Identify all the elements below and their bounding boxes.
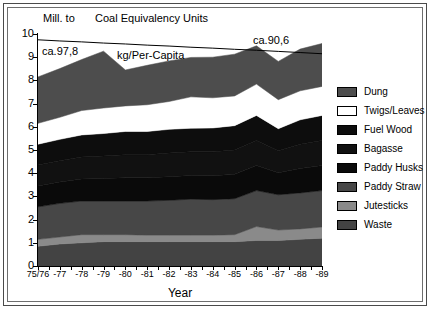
x-axis-tickmark: [311, 266, 312, 270]
chart-figure: Mill. to Coal Equivalency Units 10987654…: [0, 0, 432, 311]
annotation-per-capita-label: kg/Per-Capita: [117, 49, 184, 61]
y-axis-tick-label: 9: [8, 51, 34, 62]
x-axis-tick-label: -77: [53, 269, 66, 279]
x-axis-tickmark: [38, 266, 39, 270]
x-axis-tickmark: [147, 266, 148, 270]
x-axis-tickmark: [256, 266, 257, 270]
x-axis-tick-label: -80: [119, 269, 132, 279]
y-axis-labels: 109876543210: [4, 0, 34, 311]
y-axis-tick-label: 1: [8, 237, 34, 248]
legend-item-label: Paddy Straw: [364, 181, 421, 192]
legend-item: Paddy Husks: [337, 158, 429, 177]
annotation-right-value: ca.90,6: [253, 34, 289, 46]
x-axis-tickmark: [136, 266, 137, 270]
legend-item-label: Bagasse: [364, 143, 403, 154]
legend-swatch-icon: [337, 201, 357, 211]
y-axis-tick-label: 2: [8, 214, 34, 225]
legend-swatch-icon: [337, 163, 357, 173]
x-axis-tick-label: -87: [272, 269, 285, 279]
x-axis-tickmark: [202, 266, 203, 270]
x-axis-tick-label: 75/76: [27, 269, 50, 279]
x-axis-tickmark: [246, 266, 247, 270]
x-axis-tickmark: [322, 266, 323, 270]
x-axis-tickmark: [300, 266, 301, 270]
x-axis-tick-label: -82: [163, 269, 176, 279]
legend-item-label: Dung: [364, 86, 388, 97]
y-axis-tick-label: 10: [8, 28, 34, 39]
x-axis-tickmark: [235, 266, 236, 270]
y-axis-unit-label: Mill. to: [43, 12, 75, 24]
x-axis-tickmark: [93, 266, 94, 270]
legend-item: Dung: [337, 82, 429, 101]
legend-item-label: Waste: [364, 219, 392, 230]
legend: DungTwigs/LeavesFuel WoodBagassePaddy Hu…: [337, 82, 429, 234]
y-axis-tick-label: 7: [8, 98, 34, 109]
x-axis-tickmark: [82, 266, 83, 270]
x-axis-tick-label: -78: [75, 269, 88, 279]
x-axis-tickmark: [191, 266, 192, 270]
x-axis-tickmark: [278, 266, 279, 270]
x-axis-tick-label: -88: [294, 269, 307, 279]
legend-item: Bagasse: [337, 139, 429, 158]
x-axis-tickmark: [224, 266, 225, 270]
y-axis-tick-label: 3: [8, 190, 34, 201]
x-axis-tickmark: [125, 266, 126, 270]
legend-item: Waste: [337, 215, 429, 234]
legend-item-label: Twigs/Leaves: [364, 105, 425, 116]
annotation-left-value: ca.97,8: [42, 45, 78, 57]
y-axis-tick-label: 6: [8, 121, 34, 132]
legend-swatch-icon: [337, 87, 357, 97]
x-axis-tick-label: -89: [315, 269, 328, 279]
x-axis-tickmark: [213, 266, 214, 270]
legend-swatch-icon: [337, 144, 357, 154]
y-axis-tick-label: 8: [8, 74, 34, 85]
x-axis-labels: 75/76-77-78-79-80-81-82-83-84-85-86-87-8…: [0, 269, 432, 285]
x-axis-tick-label: -86: [250, 269, 263, 279]
legend-item-label: Paddy Husks: [364, 162, 423, 173]
legend-swatch-icon: [337, 182, 357, 192]
stacked-area-series: [38, 34, 322, 266]
legend-item: Jutesticks: [337, 196, 429, 215]
x-axis-tickmark: [289, 266, 290, 270]
x-axis-tickmark: [114, 266, 115, 270]
plot-area: [38, 34, 322, 266]
x-axis-tickmark: [158, 266, 159, 270]
y-axis-tick-label: 5: [8, 144, 34, 155]
legend-item-label: Jutesticks: [364, 200, 408, 211]
x-axis-tickmark: [71, 266, 72, 270]
chart-title: Coal Equivalency Units: [95, 12, 208, 24]
legend-swatch-icon: [337, 125, 357, 135]
x-axis-tick-label: -85: [228, 269, 241, 279]
x-axis-tickmark: [180, 266, 181, 270]
legend-item: Paddy Straw: [337, 177, 429, 196]
legend-item: Twigs/Leaves: [337, 101, 429, 120]
x-axis-tick-label: -79: [97, 269, 110, 279]
legend-item-label: Fuel Wood: [364, 124, 412, 135]
legend-swatch-icon: [337, 106, 357, 116]
y-axis-tick-label: 4: [8, 167, 34, 178]
x-axis-tickmark: [104, 266, 105, 270]
x-axis-tickmark: [169, 266, 170, 270]
x-axis-tickmark: [49, 266, 50, 270]
x-axis-tickmark: [60, 266, 61, 270]
x-axis-title: Year: [38, 286, 322, 300]
x-axis-tick-label: -83: [184, 269, 197, 279]
x-axis-tickmark: [267, 266, 268, 270]
legend-item: Fuel Wood: [337, 120, 429, 139]
legend-swatch-icon: [337, 220, 357, 230]
x-axis-tick-label: -84: [206, 269, 219, 279]
x-axis-tick-label: -81: [141, 269, 154, 279]
